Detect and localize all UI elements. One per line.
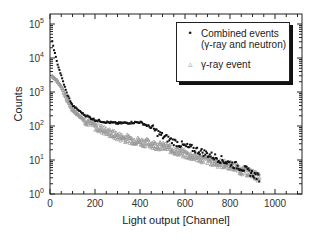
open-triangle-marker-icon: ▵	[183, 59, 197, 70]
legend: • Combined events (γ-ray and neutron) ▵ …	[176, 22, 290, 82]
legend-item-combined: • Combined events (γ-ray and neutron)	[183, 28, 286, 50]
legend-label-combined-sub: (γ-ray and neutron)	[201, 39, 286, 50]
y-axis-label: Counts	[12, 86, 24, 121]
legend-label-combined: Combined events	[201, 28, 279, 39]
x-tick-label: 0	[47, 198, 53, 209]
y-tick-label: 105	[29, 17, 44, 30]
x-tick-label: 600	[177, 198, 194, 209]
x-axis-label: Light output [Channel]	[122, 214, 230, 226]
y-tick-label: 103	[29, 85, 44, 98]
x-tick-label: 400	[132, 198, 149, 209]
y-tick-label: 102	[29, 119, 44, 132]
legend-item-gamma: ▵ γ-ray event	[183, 59, 250, 70]
x-tick-label: 200	[87, 198, 104, 209]
filled-circle-marker-icon: •	[183, 28, 197, 39]
legend-label-gamma: γ-ray event	[201, 59, 250, 70]
y-tick-label: 101	[29, 153, 44, 166]
x-tick-label: 800	[222, 198, 239, 209]
y-tick-label: 100	[29, 187, 44, 200]
y-tick-label: 104	[29, 51, 44, 64]
x-tick-label: 1000	[264, 198, 287, 209]
